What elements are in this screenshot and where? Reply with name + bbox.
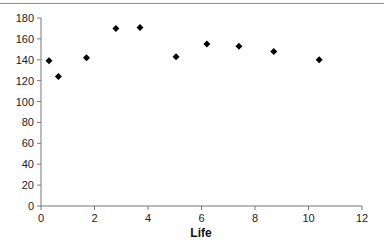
scatter-chart: 020406080100120140160180 024681012 Life (0, 0, 384, 247)
y-tick-label: 40 (22, 158, 34, 170)
x-tick-label: 12 (356, 212, 368, 224)
diamond-marker (235, 43, 242, 50)
x-axis: 024681012 (38, 206, 368, 224)
diamond-marker (270, 48, 277, 55)
x-tick-label: 6 (198, 212, 204, 224)
x-tick-label: 8 (252, 212, 258, 224)
data-points (46, 24, 323, 80)
y-tick-label: 20 (22, 179, 34, 191)
x-tick-label: 0 (38, 212, 44, 224)
x-tick-label: 2 (91, 212, 97, 224)
y-tick-label: 140 (16, 54, 34, 66)
y-tick-label: 160 (16, 33, 34, 45)
diamond-marker (136, 24, 143, 31)
x-tick-label: 4 (145, 212, 151, 224)
x-tick-label: 10 (302, 212, 314, 224)
y-tick-label: 0 (28, 200, 34, 212)
diamond-marker (46, 57, 53, 64)
y-tick-label: 120 (16, 75, 34, 87)
y-tick-label: 100 (16, 96, 34, 108)
y-axis: 020406080100120140160180 (16, 12, 41, 212)
diamond-marker (173, 53, 180, 60)
y-tick-label: 80 (22, 116, 34, 128)
y-tick-label: 60 (22, 137, 34, 149)
y-tick-label: 180 (16, 12, 34, 24)
diamond-marker (316, 56, 323, 63)
diamond-marker (203, 41, 210, 48)
diamond-marker (83, 54, 90, 61)
x-axis-title: Life (190, 226, 212, 240)
diamond-marker (112, 25, 119, 32)
diamond-marker (55, 73, 62, 80)
